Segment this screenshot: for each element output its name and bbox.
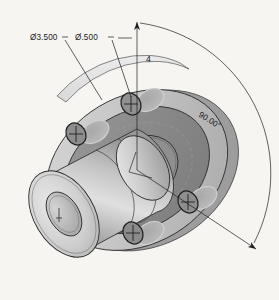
hole-quantity-label: 4: [146, 54, 151, 64]
bolt-circle-diameter-label: Ø3.500: [30, 33, 58, 42]
technical-drawing-canvas: Ø3.500 Ø.500 4 90.00°: [0, 0, 279, 300]
hole-diameter-label: Ø.500: [75, 33, 98, 42]
isometric-flange-drawing: Ø3.500 Ø.500 4 90.00°: [0, 0, 279, 300]
